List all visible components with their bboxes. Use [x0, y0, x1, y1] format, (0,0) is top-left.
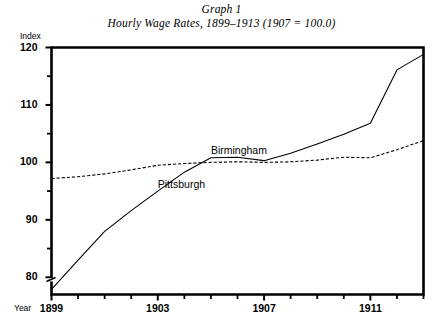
plot-canvas — [0, 0, 443, 330]
axis-frame — [52, 48, 424, 295]
axis-ticks — [46, 48, 424, 301]
series-line-birmingham — [52, 141, 424, 179]
chart-figure: Graph 1 Hourly Wage Rates, 1899–1913 (19… — [0, 0, 443, 330]
series-line-pittsburgh — [52, 54, 424, 289]
